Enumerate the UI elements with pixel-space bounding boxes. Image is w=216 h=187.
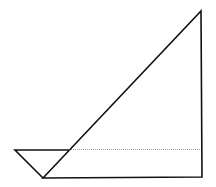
large-right-triangle — [43, 11, 202, 178]
geometry-diagram — [0, 0, 216, 187]
small-triangle — [15, 150, 69, 178]
